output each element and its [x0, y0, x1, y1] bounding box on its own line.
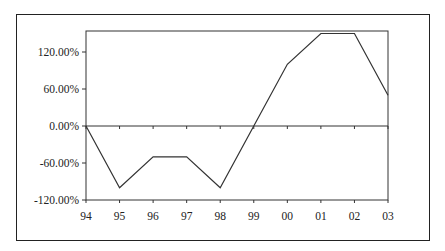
x-tick-label: 97 — [181, 210, 193, 222]
x-tick-label: 01 — [315, 210, 327, 222]
y-tick-label: 60.00% — [44, 83, 80, 95]
y-tick-label: -120.00% — [34, 194, 79, 206]
y-axis: 120.00%60.00%0.00%-60.00%-120.00% — [34, 46, 86, 206]
x-tick-label: 99 — [248, 210, 260, 222]
x-tick-label: 02 — [349, 210, 361, 222]
x-tick-label: 95 — [114, 210, 126, 222]
y-tick-label: 120.00% — [38, 46, 80, 58]
x-tick-label: 03 — [382, 210, 394, 222]
x-tick-label: 98 — [214, 210, 226, 222]
line-chart: 120.00%60.00%0.00%-60.00%-120.00% 949596… — [0, 0, 445, 251]
plot-area — [86, 31, 388, 200]
y-tick-label: 0.00% — [49, 120, 79, 132]
y-tick-label: -60.00% — [40, 157, 80, 169]
x-tick-label: 00 — [282, 210, 294, 222]
series-line — [86, 34, 388, 188]
x-tick-label: 94 — [80, 210, 92, 222]
x-axis: 94959697989900010203 — [80, 126, 394, 222]
x-tick-label: 96 — [147, 210, 159, 222]
